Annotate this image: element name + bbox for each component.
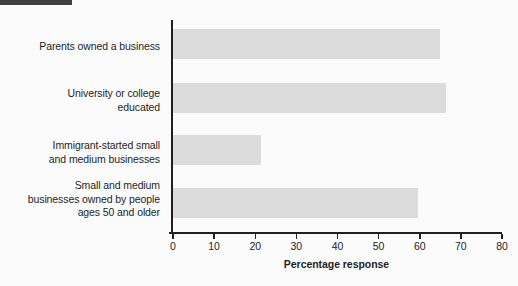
x-tick-mark-1 xyxy=(213,234,215,239)
x-axis: 01020304050607080 Percentage response xyxy=(171,232,502,286)
category-label-1-line-1: educated xyxy=(0,101,160,115)
category-label-3-line-1: businesses owned by people xyxy=(0,193,160,207)
category-label-1: University or college educated xyxy=(0,87,160,114)
x-tick-label-8: 80 xyxy=(487,240,517,252)
category-label-2-line-0: Immigrant-started small xyxy=(0,139,160,153)
horizontal-bar-chart: Parents owned a business University or c… xyxy=(0,0,518,286)
category-label-1-line-0: University or college xyxy=(0,87,160,101)
bar-3 xyxy=(173,188,418,218)
category-label-2-line-1: and medium businesses xyxy=(0,153,160,167)
x-tick-label-4: 40 xyxy=(323,240,353,252)
bar-1 xyxy=(173,83,446,113)
category-label-0: Parents owned a business xyxy=(0,40,160,54)
plot-area xyxy=(171,20,502,232)
x-tick-mark-2 xyxy=(255,234,257,239)
x-tick-mark-5 xyxy=(378,234,380,239)
x-tick-label-1: 10 xyxy=(199,240,229,252)
bar-0 xyxy=(173,29,440,59)
x-tick-label-7: 70 xyxy=(446,240,476,252)
x-tick-label-2: 20 xyxy=(240,240,270,252)
x-tick-label-3: 30 xyxy=(281,240,311,252)
x-tick-label-6: 60 xyxy=(405,240,435,252)
category-label-3: Small and medium businesses owned by peo… xyxy=(0,179,160,220)
category-label-3-line-2: ages 50 and older xyxy=(0,206,160,220)
x-tick-mark-0 xyxy=(172,234,174,239)
x-tick-label-0: 0 xyxy=(158,240,188,252)
category-axis: Parents owned a business University or c… xyxy=(0,20,166,232)
x-tick-mark-6 xyxy=(419,234,421,239)
x-tick-mark-3 xyxy=(296,234,298,239)
x-axis-title: Percentage response xyxy=(171,258,502,270)
category-label-3-line-0: Small and medium xyxy=(0,179,160,193)
x-tick-mark-4 xyxy=(337,234,339,239)
category-label-0-line-0: Parents owned a business xyxy=(0,40,160,54)
x-tick-label-5: 50 xyxy=(364,240,394,252)
category-label-2: Immigrant-started small and medium busin… xyxy=(0,139,160,166)
x-axis-line xyxy=(169,232,502,234)
x-tick-mark-7 xyxy=(460,234,462,239)
bar-2 xyxy=(173,135,261,165)
x-tick-mark-8 xyxy=(501,234,503,239)
